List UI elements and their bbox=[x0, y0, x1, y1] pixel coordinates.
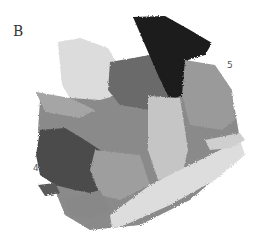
marker-label-5: 5 bbox=[227, 60, 233, 70]
brushstroke-painting bbox=[0, 0, 260, 246]
stroke-right-gray bbox=[182, 60, 235, 130]
marker-label-4: 4 bbox=[33, 163, 39, 173]
panel-label: B bbox=[13, 23, 23, 39]
figure-panel: B 5 4 bbox=[0, 0, 260, 246]
